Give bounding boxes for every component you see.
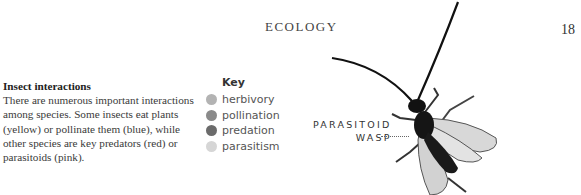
legend-item-herbivory: herbivory: [206, 92, 280, 108]
predation-swatch-icon: [206, 125, 217, 136]
pollination-swatch-icon: [206, 110, 217, 121]
legend: Key herbivory pollination predation para…: [206, 76, 280, 154]
running-head: ECOLOGY: [265, 19, 338, 35]
legend-label: herbivory: [222, 93, 275, 106]
legend-item-parasitism: parasitism: [206, 139, 280, 155]
article-block: Insect interactions There are numerous i…: [3, 79, 203, 164]
legend-title: Key: [222, 76, 280, 89]
article-title: Insect interactions: [3, 79, 203, 93]
legend-label: parasitism: [222, 140, 280, 153]
parasitism-swatch-icon: [206, 141, 217, 152]
legend-item-pollination: pollination: [206, 108, 280, 124]
legend-item-predation: predation: [206, 123, 280, 139]
parasitoid-wasp-illustration-icon: [330, 0, 581, 195]
article-body: There are numerous important interaction…: [3, 94, 194, 163]
herbivory-swatch-icon: [206, 94, 217, 105]
legend-label: pollination: [222, 109, 280, 122]
legend-label: predation: [222, 124, 275, 137]
